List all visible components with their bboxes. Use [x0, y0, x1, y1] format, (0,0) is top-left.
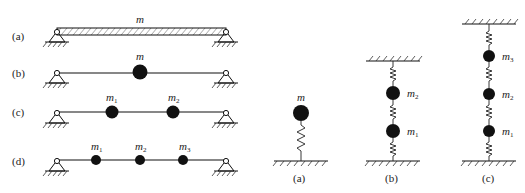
lumped-mass — [483, 125, 495, 137]
mass-label: m — [297, 91, 305, 103]
lumped-mass — [135, 155, 145, 165]
mass-label: m2 — [168, 91, 180, 105]
lumped-mass — [167, 106, 180, 119]
ceiling-icon — [462, 19, 518, 24]
pin-support-icon — [43, 158, 69, 176]
row-label: (c) — [12, 106, 25, 119]
spring-system-a: m (a) — [273, 91, 328, 185]
pin-support-icon — [212, 158, 238, 176]
lumped-mass — [386, 86, 400, 100]
spring-icon — [486, 24, 492, 50]
spring-system-c: m3 m2 m1 (c) — [461, 19, 518, 185]
lumped-mass — [293, 105, 309, 121]
spring-icon — [390, 100, 396, 124]
system-label: (c) — [482, 172, 495, 185]
diagram-canvas: (a) m (b) m (c) m1 m2 (d) m1 m2 m3 — [0, 0, 525, 193]
mass-label: m3 — [179, 140, 191, 154]
ground-icon — [461, 161, 516, 166]
mass-label: m1 — [91, 140, 103, 154]
spring-icon — [297, 121, 305, 161]
mass-label: m1 — [502, 125, 514, 139]
mass-label: m — [136, 50, 144, 62]
mass-label: m1 — [106, 91, 118, 105]
spring-system-b: m2 m1 (b) — [365, 56, 422, 185]
beam-row-a: (a) m — [12, 13, 238, 47]
spring-icon — [486, 62, 492, 88]
lumped-mass — [178, 155, 188, 165]
beam-row-c: (c) m1 m2 — [12, 91, 238, 128]
beam-row-d: (d) m1 m2 m3 — [12, 140, 238, 176]
mass-label: m1 — [407, 125, 419, 139]
pin-support-icon — [43, 110, 69, 128]
beam-row-b: (b) m — [12, 50, 238, 88]
pin-support-icon — [212, 110, 238, 128]
mass-label: m2 — [135, 140, 147, 154]
ceiling-icon — [366, 56, 422, 61]
lumped-mass — [386, 124, 400, 138]
row-label: (d) — [12, 155, 25, 168]
spring-icon — [390, 61, 396, 86]
lumped-mass — [91, 155, 101, 165]
lumped-mass — [483, 88, 495, 100]
spring-icon — [486, 137, 492, 161]
mass-label: m2 — [502, 88, 514, 102]
system-label: (a) — [293, 172, 306, 185]
mass-label: m — [136, 13, 144, 25]
lumped-mass — [483, 50, 495, 62]
mass-label: m2 — [407, 87, 419, 101]
lumped-mass — [106, 106, 119, 119]
row-label: (b) — [12, 67, 25, 80]
mass-label: m3 — [502, 50, 514, 64]
spring-icon — [390, 138, 396, 161]
spring-icon — [486, 100, 492, 125]
system-label: (b) — [385, 172, 398, 185]
lumped-mass — [133, 65, 148, 80]
row-label: (a) — [12, 30, 25, 43]
ground-icon — [365, 161, 420, 166]
ground-icon — [273, 161, 328, 166]
distributed-mass-beam — [57, 28, 226, 35]
